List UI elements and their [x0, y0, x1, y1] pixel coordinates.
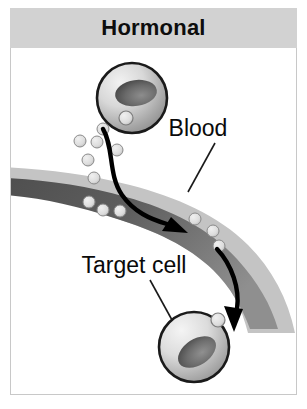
hormone-particle [74, 135, 86, 147]
diagram-panel: Blood Target cell [10, 48, 297, 395]
diagram-canvas: Blood Target cell [10, 48, 297, 394]
target-cell-label: Target cell [82, 252, 187, 278]
target-cell-leader-line [150, 280, 172, 320]
blood-vessel [10, 167, 295, 333]
secreting-cell [97, 63, 167, 133]
blood-leader-line [188, 143, 215, 192]
delivery-arrow-head [224, 306, 243, 332]
hormone-particle [189, 213, 201, 225]
hormone-particle [207, 225, 219, 237]
figure-header: Hormonal [10, 8, 297, 48]
target-cell-receptor [211, 313, 225, 327]
secreting-cell-receptor [119, 111, 133, 125]
hormone-particle [97, 204, 109, 216]
blood-label: Blood [169, 115, 228, 141]
hormone-particle [83, 196, 95, 208]
hormonal-signaling-figure: Hormonal [0, 0, 307, 409]
page-title: Hormonal [101, 17, 205, 39]
hormone-particle [88, 172, 100, 184]
hormone-particle [91, 136, 103, 148]
hormone-particle [114, 205, 126, 217]
hormone-particle [82, 154, 94, 166]
target-cell [159, 312, 229, 382]
hormone-particle [111, 144, 123, 156]
